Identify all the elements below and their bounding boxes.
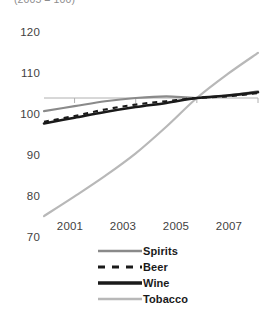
x-tick-label: 2007 [209, 220, 249, 232]
legend-item-tobacco: Tobacco [0, 291, 268, 307]
legend-item-wine: Wine [0, 275, 268, 291]
plot-area [0, 0, 268, 232]
x-tick-label: 2005 [156, 220, 196, 232]
y-tick-label: 70 [8, 231, 40, 243]
legend-swatch-tobacco-line [98, 292, 142, 306]
plot-canvas [0, 0, 268, 232]
y-tick-label: 100 [8, 108, 40, 120]
legend-swatch-spirits-line [98, 244, 142, 258]
legend-label-beer: Beer [143, 261, 168, 273]
legend-label-tobacco: Tobacco [143, 293, 188, 305]
legend-label-spirits: Spirits [143, 245, 178, 257]
legend-swatch-beer-line [98, 260, 142, 274]
chart-legend: Spirits Beer Wine To [0, 243, 268, 307]
x-tick-label: 2003 [103, 220, 143, 232]
y-tick-label: 90 [8, 149, 40, 161]
chart-screenshot: (2005 = 100) 120 110 100 90 80 70 2001 2… [0, 0, 268, 309]
series-line-tobacco [44, 53, 258, 216]
legend-item-beer: Beer [0, 259, 268, 275]
x-tick-label: 2001 [50, 220, 90, 232]
legend-swatch-wine-line [98, 276, 142, 290]
legend-label-wine: Wine [143, 277, 170, 289]
y-tick-label: 120 [8, 26, 40, 38]
y-tick-label: 110 [8, 67, 40, 79]
legend-item-spirits: Spirits [0, 243, 268, 259]
y-tick-label: 80 [8, 190, 40, 202]
